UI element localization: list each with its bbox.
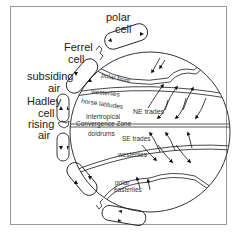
label-polar: polar — [106, 12, 130, 23]
label-itcz-2: Convergence Zone — [76, 121, 131, 128]
label-subsiding: subsiding — [27, 71, 73, 82]
label-polar-cell: cell — [115, 24, 132, 35]
label-ne-trades: NE trades — [133, 108, 164, 115]
label-ferrel: Ferrel — [64, 42, 93, 53]
label-polar-easterlies-2: easterlies — [114, 187, 142, 194]
label-rising-air: air — [38, 130, 50, 141]
label-se-trades: SE trades — [122, 136, 151, 143]
label-hadley: Hadley — [27, 96, 61, 107]
label-subsiding-air: air — [48, 83, 60, 94]
label-doldrums: doldrums — [88, 131, 115, 138]
label-westerlies-south: westerlies — [118, 152, 147, 159]
label-ferrel-cell: cell — [68, 54, 85, 65]
